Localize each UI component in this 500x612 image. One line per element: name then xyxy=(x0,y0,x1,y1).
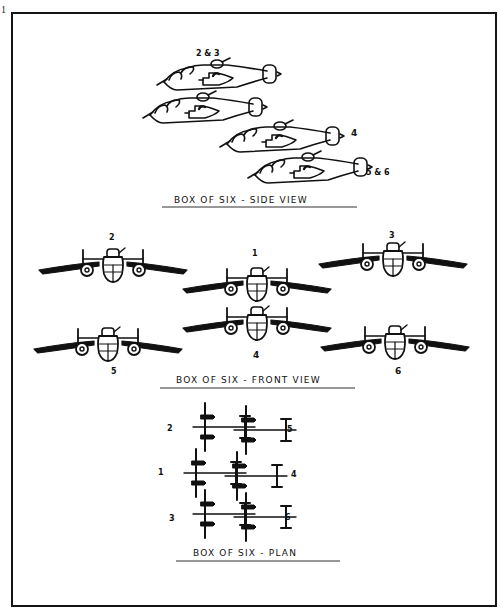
side-view-bomber-4 xyxy=(220,120,344,152)
front-label-4: 4 xyxy=(253,350,259,360)
front-view-caption: BOX OF SIX - FRONT VIEW xyxy=(176,375,321,385)
side-label-5-6: 5 & 6 xyxy=(366,168,390,177)
plan-view-bomber-4 xyxy=(225,452,287,500)
plan-view-caption: BOX OF SIX - PLAN xyxy=(193,548,297,558)
front-view-bomber-1 xyxy=(183,267,331,301)
plan-label-6: 6 xyxy=(285,513,291,522)
front-view-bomber-3 xyxy=(319,242,467,276)
side-view-bomber-2-3-trail xyxy=(143,91,267,123)
front-view-bomber-5 xyxy=(34,327,182,361)
plan-view-diagram: 2 1 3 5 4 6 BOX OF SIX - PLAN xyxy=(158,403,340,561)
side-label-2-3: 2 & 3 xyxy=(196,49,220,58)
side-view-diagram: 2 & 3 4 5 & 6 BOX OF SIX - SIDE VIEW xyxy=(143,49,390,207)
plan-label-3: 3 xyxy=(169,514,175,523)
side-view-bomber-5-6 xyxy=(248,151,372,183)
side-label-4: 4 xyxy=(351,128,357,138)
front-label-6: 6 xyxy=(395,366,401,376)
front-label-2: 2 xyxy=(109,233,115,242)
plan-label-1: 1 xyxy=(158,468,164,477)
plan-label-5: 5 xyxy=(287,425,293,434)
front-view-bomber-2 xyxy=(39,248,187,282)
plan-label-2: 2 xyxy=(167,424,173,433)
front-view-bomber-6 xyxy=(321,325,469,359)
plan-label-4: 4 xyxy=(291,470,297,479)
side-view-bomber-2-3-lead xyxy=(157,58,281,90)
diagram-canvas: 2 & 3 4 5 & 6 BOX OF SIX - SIDE VIEW 2 1… xyxy=(0,0,500,612)
front-view-diagram: 2 1 3 5 4 6 BOX OF SIX - FRONT VIEW xyxy=(34,231,469,388)
front-label-5: 5 xyxy=(111,367,117,376)
front-label-1: 1 xyxy=(252,249,258,258)
side-view-caption: BOX OF SIX - SIDE VIEW xyxy=(174,195,308,205)
front-label-3: 3 xyxy=(389,231,395,240)
front-view-bomber-4 xyxy=(183,306,331,340)
